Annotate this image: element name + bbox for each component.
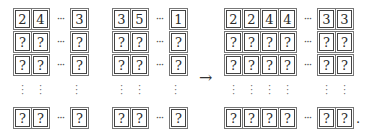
horizontal-ellipsis: ··· xyxy=(51,112,70,125)
cell: ? xyxy=(72,109,87,127)
cell: ? xyxy=(72,33,87,51)
cell: 2 xyxy=(226,10,241,28)
cell: ? xyxy=(244,56,259,74)
cell: ? xyxy=(114,109,129,127)
cell: ? xyxy=(319,109,334,127)
cell: ? xyxy=(226,33,241,51)
cell: 3 xyxy=(114,10,129,28)
cell: ? xyxy=(114,33,129,51)
vertical-ellipsis: ··· xyxy=(15,84,30,96)
cell: ? xyxy=(262,33,277,51)
cell: ? xyxy=(244,33,259,51)
right-grid-row-1: 2 2 4 4 ··· 3 3 xyxy=(226,10,355,28)
cell: 4 xyxy=(262,10,277,28)
cell: ? xyxy=(262,109,277,127)
cell: 1 xyxy=(171,10,186,28)
vertical-ellipsis: ··· xyxy=(33,84,48,96)
left-grid-row-last: ? ? ··· ? xyxy=(15,109,90,127)
cell: 3 xyxy=(319,10,334,28)
cell: ? xyxy=(171,33,186,51)
right-grid-row-3: ? ? ? ? ··· ? ? xyxy=(226,56,355,74)
cell: ? xyxy=(15,109,30,127)
cell: 3 xyxy=(337,10,352,28)
right-grid-row-last: ? ? ? ? ··· ? ? . xyxy=(226,109,360,127)
cell: ? xyxy=(337,56,352,74)
middle-grid-row-2: ? ? ··· ? xyxy=(114,33,189,51)
cell: ? xyxy=(319,33,334,51)
cell: ? xyxy=(319,56,334,74)
vertical-ellipsis: ··· xyxy=(280,84,295,96)
cell: 4 xyxy=(33,10,48,28)
cell: ? xyxy=(226,109,241,127)
vertical-ellipsis: ··· xyxy=(262,84,277,96)
cell: ? xyxy=(280,33,295,51)
horizontal-ellipsis: ··· xyxy=(150,59,169,72)
cell: ? xyxy=(114,56,129,74)
vertical-ellipsis: ··· xyxy=(132,84,147,96)
cell: 4 xyxy=(280,10,295,28)
vertical-ellipsis: ··· xyxy=(319,84,334,96)
left-grid-row-2: ? ? ··· ? xyxy=(15,33,90,51)
middle-grid-row-1: 3 5 ··· 1 xyxy=(114,10,189,28)
right-arrow-icon: → xyxy=(199,68,212,87)
cell: ? xyxy=(280,109,295,127)
cell: ? xyxy=(15,56,30,74)
horizontal-ellipsis: ··· xyxy=(51,59,70,72)
horizontal-ellipsis: ··· xyxy=(51,36,70,49)
vertical-ellipsis: ··· xyxy=(69,84,84,96)
cell: ? xyxy=(280,56,295,74)
cell: ? xyxy=(171,56,186,74)
horizontal-ellipsis: ··· xyxy=(298,36,317,49)
cell: ? xyxy=(72,56,87,74)
horizontal-ellipsis: ··· xyxy=(298,13,317,26)
horizontal-ellipsis: ··· xyxy=(150,13,169,26)
cell: ? xyxy=(171,109,186,127)
cell: ? xyxy=(132,33,147,51)
horizontal-ellipsis: ··· xyxy=(150,36,169,49)
cell: ? xyxy=(337,33,352,51)
cell: 3 xyxy=(72,10,87,28)
cell: ? xyxy=(262,56,277,74)
middle-grid-row-3: ? ? ··· ? xyxy=(114,56,189,74)
vertical-ellipsis: ··· xyxy=(226,84,241,96)
cell: 2 xyxy=(15,10,30,28)
cell: ? xyxy=(132,109,147,127)
horizontal-ellipsis: ··· xyxy=(150,112,169,125)
cell: ? xyxy=(244,109,259,127)
vertical-ellipsis: ··· xyxy=(244,84,259,96)
right-grid-row-2: ? ? ? ? ··· ? ? xyxy=(226,33,355,51)
cell: 5 xyxy=(132,10,147,28)
cell: ? xyxy=(15,33,30,51)
cell: ? xyxy=(33,33,48,51)
trailing-period: . xyxy=(356,111,360,126)
left-grid-row-3: ? ? ··· ? xyxy=(15,56,90,74)
cell: 2 xyxy=(244,10,259,28)
cell: ? xyxy=(33,56,48,74)
horizontal-ellipsis: ··· xyxy=(51,13,70,26)
vertical-ellipsis: ··· xyxy=(114,84,129,96)
cell: ? xyxy=(337,109,352,127)
horizontal-ellipsis: ··· xyxy=(298,59,317,72)
left-grid-row-1: 2 4 ··· 3 xyxy=(15,10,90,28)
cell: ? xyxy=(226,56,241,74)
middle-grid-row-last: ? ? ··· ? xyxy=(114,109,189,127)
horizontal-ellipsis: ··· xyxy=(298,112,317,125)
cell: ? xyxy=(132,56,147,74)
vertical-ellipsis: ··· xyxy=(168,84,183,96)
vertical-ellipsis: ··· xyxy=(337,84,352,96)
cell: ? xyxy=(33,109,48,127)
